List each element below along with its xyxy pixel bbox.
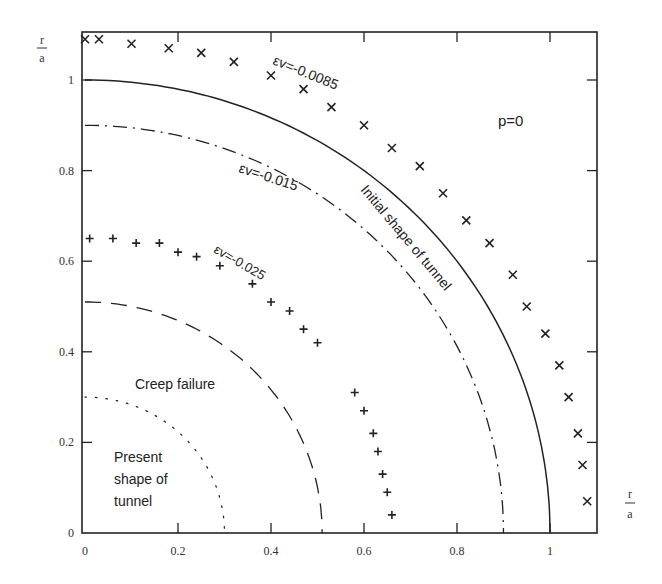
label-ev-015: εv=-0.015 bbox=[237, 160, 300, 194]
x-marker bbox=[95, 35, 103, 43]
label-present-1: Present bbox=[114, 449, 162, 465]
plus-marker bbox=[248, 280, 256, 288]
x-axis-label-r: r bbox=[628, 487, 632, 501]
x-marker bbox=[509, 271, 517, 279]
plus-marker bbox=[286, 307, 294, 315]
plus-marker bbox=[267, 298, 275, 306]
label-creep-failure: Creep failure bbox=[135, 376, 215, 392]
plus-marker bbox=[132, 239, 140, 247]
x-marker bbox=[565, 393, 573, 401]
y-tick-label: 0.4 bbox=[59, 345, 74, 359]
plus-marker bbox=[374, 447, 382, 455]
x-marker bbox=[267, 71, 275, 79]
y-axis-label-r: r bbox=[40, 33, 44, 47]
x-marker bbox=[388, 144, 396, 152]
curve-solid bbox=[85, 80, 550, 533]
x-marker bbox=[360, 121, 368, 129]
x-marker bbox=[583, 497, 591, 505]
tunnel-shape-chart: 00.20.40.60.8100.20.40.60.81 r a r a p=0… bbox=[0, 0, 662, 584]
y-tick-label: 0.2 bbox=[59, 435, 74, 449]
y-tick-label: 1 bbox=[68, 73, 74, 87]
plus-marker bbox=[351, 389, 359, 397]
plus-marker bbox=[360, 407, 368, 415]
x-tick-label: 0.8 bbox=[450, 544, 465, 558]
x-marker bbox=[128, 40, 136, 48]
x-tick-label: 0.6 bbox=[357, 544, 372, 558]
x-marker bbox=[165, 44, 173, 52]
y-tick-label: 0.6 bbox=[59, 254, 74, 268]
plus-marker bbox=[193, 253, 201, 261]
x-marker bbox=[439, 189, 447, 197]
x-marker bbox=[541, 330, 549, 338]
param-label: p=0 bbox=[498, 112, 523, 129]
x-tick-label: 0 bbox=[82, 544, 88, 558]
x-marker bbox=[574, 429, 582, 437]
y-axis-label: r a bbox=[37, 33, 47, 65]
x-marker bbox=[416, 162, 424, 170]
y-tick-label: 0.8 bbox=[59, 164, 74, 178]
y-tick-label: 0 bbox=[68, 526, 74, 540]
x-marker bbox=[462, 216, 470, 224]
x-marker bbox=[523, 303, 531, 311]
x-axis-label-a: a bbox=[627, 507, 633, 521]
label-initial-shape: Initial shape of tunnel bbox=[358, 182, 455, 294]
x-tick-label: 0.4 bbox=[264, 544, 279, 558]
x-tick-label: 1 bbox=[547, 544, 553, 558]
x-marker bbox=[486, 239, 494, 247]
plus-marker bbox=[300, 325, 308, 333]
x-marker bbox=[327, 103, 335, 111]
x-marker bbox=[555, 361, 563, 369]
x-marker bbox=[300, 85, 308, 93]
label-present-2: shape of bbox=[114, 471, 168, 487]
plus-marker bbox=[86, 235, 94, 243]
plus-marker bbox=[383, 488, 391, 496]
label-present-3: tunnel bbox=[114, 493, 152, 509]
x-tick-label: 0.2 bbox=[171, 544, 186, 558]
markers bbox=[81, 35, 591, 519]
x-marker bbox=[579, 461, 587, 469]
plus-marker bbox=[369, 429, 377, 437]
plus-marker bbox=[314, 339, 322, 347]
y-axis-label-a: a bbox=[39, 51, 45, 65]
plus-marker bbox=[109, 235, 117, 243]
curves bbox=[85, 80, 550, 533]
plus-marker bbox=[379, 470, 387, 478]
plus-marker bbox=[155, 239, 163, 247]
x-axis-label: r a bbox=[625, 487, 635, 521]
x-marker bbox=[230, 58, 238, 66]
plus-marker bbox=[388, 511, 396, 519]
plus-marker bbox=[216, 262, 224, 270]
plus-marker bbox=[174, 248, 182, 256]
x-marker bbox=[197, 49, 205, 57]
curve-dotted bbox=[85, 397, 225, 533]
